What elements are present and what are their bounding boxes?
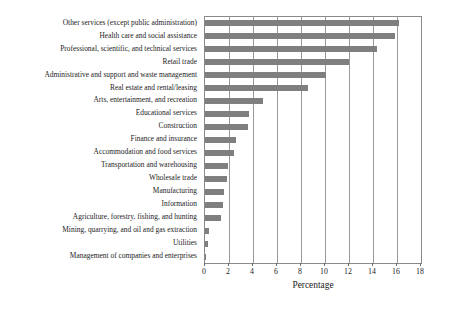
bar: [205, 59, 349, 65]
x-tick: [300, 263, 301, 266]
bar-row: [205, 159, 421, 172]
bar: [205, 215, 221, 221]
category-label: Management of companies and enterprises: [0, 249, 201, 262]
category-label: Health care and social assistance: [0, 29, 201, 42]
bar: [205, 46, 377, 52]
bar: [205, 85, 308, 91]
plot-area: [204, 16, 422, 264]
category-label: Transportation and warehousing: [0, 158, 201, 171]
bar-row: [205, 30, 421, 43]
x-tick: [204, 263, 205, 266]
bar: [205, 202, 223, 208]
bar-row: [205, 82, 421, 95]
x-tick: [396, 263, 397, 266]
x-tick-label: 18: [416, 267, 424, 276]
category-label: Construction: [0, 120, 201, 133]
bar-chart-figure: Other services (except public administra…: [0, 0, 449, 311]
category-label: Utilities: [0, 236, 201, 249]
bar-row: [205, 108, 421, 121]
bar: [205, 20, 399, 26]
x-tick: [228, 263, 229, 266]
category-label: Wholesale trade: [0, 171, 201, 184]
x-tick-label: 16: [392, 267, 400, 276]
bar-row: [205, 134, 421, 147]
bar: [205, 228, 209, 234]
category-axis-labels: Other services (except public administra…: [0, 16, 201, 262]
category-label: Retail trade: [0, 55, 201, 68]
bar-row: [205, 185, 421, 198]
bar: [205, 72, 326, 78]
x-tick-label: 12: [344, 267, 352, 276]
bar-row: [205, 250, 421, 263]
bar-row: [205, 69, 421, 82]
x-tick-label: 8: [298, 267, 302, 276]
bar: [205, 33, 395, 39]
category-label: Professional, scientific, and technical …: [0, 42, 201, 55]
bar: [205, 189, 224, 195]
x-tick-label: 6: [274, 267, 278, 276]
bar: [205, 163, 228, 169]
bar-row: [205, 121, 421, 134]
bar-row: [205, 56, 421, 69]
category-label: Arts, entertainment, and recreation: [0, 94, 201, 107]
bar-series: [205, 17, 421, 263]
x-tick-label: 14: [368, 267, 376, 276]
category-label: Accommodation and food services: [0, 146, 201, 159]
x-tick-label: 0: [202, 267, 206, 276]
x-tick-label: 2: [226, 267, 230, 276]
bar: [205, 124, 248, 130]
category-label: Manufacturing: [0, 184, 201, 197]
category-label: Finance and insurance: [0, 133, 201, 146]
bar: [205, 254, 206, 260]
bar: [205, 137, 236, 143]
bar: [205, 241, 208, 247]
x-tick: [252, 263, 253, 266]
bar: [205, 111, 249, 117]
x-tick: [348, 263, 349, 266]
category-label: Educational services: [0, 107, 201, 120]
bar: [205, 176, 227, 182]
x-axis: Percentage 024681012141618: [204, 263, 422, 303]
category-label: Real estate and rental/leasing: [0, 81, 201, 94]
category-label: Administrative and support and waste man…: [0, 68, 201, 81]
bar-row: [205, 224, 421, 237]
bar-row: [205, 237, 421, 250]
bar-row: [205, 95, 421, 108]
category-label: Information: [0, 197, 201, 210]
x-tick: [276, 263, 277, 266]
bar-row: [205, 43, 421, 56]
bar-row: [205, 147, 421, 160]
bar-row: [205, 172, 421, 185]
category-label: Mining, quarrying, and oil and gas extra…: [0, 223, 201, 236]
x-tick: [420, 263, 421, 266]
bar: [205, 150, 234, 156]
bar-row: [205, 198, 421, 211]
x-tick-label: 4: [250, 267, 254, 276]
bar-row: [205, 211, 421, 224]
x-tick-label: 10: [320, 267, 328, 276]
x-tick: [372, 263, 373, 266]
category-label: Other services (except public administra…: [0, 16, 201, 29]
x-axis-title: Percentage: [204, 280, 422, 290]
bar-row: [205, 17, 421, 30]
category-label: Agriculture, forestry, fishing, and hunt…: [0, 210, 201, 223]
bar: [205, 98, 263, 104]
x-tick: [324, 263, 325, 266]
